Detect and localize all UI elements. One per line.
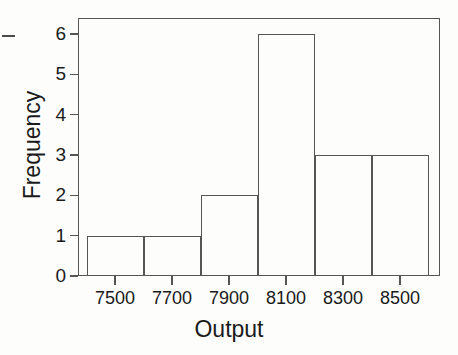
y-axis-tick-label: 5 [55,64,66,83]
x-axis-tick-label: 7700 [140,288,204,308]
y-axis-tick-mark [70,74,78,75]
x-axis-tick-mark [114,276,115,285]
histogram-bar [201,195,258,276]
x-axis-tick-label: 8500 [368,288,432,308]
x-axis-tick-label: 7500 [83,288,147,308]
x-axis-tick-label: 8300 [311,288,375,308]
y-axis-tick-mark [70,235,78,236]
histogram-bar [258,34,315,276]
x-axis-tick-mark [399,276,400,285]
histogram-bar [315,155,372,276]
y-axis-tick-label: 6 [55,24,66,43]
histogram-bar [144,236,201,276]
y-axis-tick-label: 1 [55,226,66,245]
y-axis-tick-mark [70,195,78,196]
histogram-bar [372,155,429,276]
scan-artifact-dash [2,35,15,37]
y-axis-tick-mark [70,33,78,34]
y-axis-tick-mark [70,114,78,115]
y-axis-tick-mark [70,154,78,155]
histogram-figure: Output Frequency 01234567500770079008100… [0,0,458,355]
y-axis-tick-label: 2 [55,185,66,204]
x-axis-tick-mark [342,276,343,285]
y-axis-tick-label: 4 [55,105,66,124]
x-axis-title: Output [0,316,458,342]
x-axis-tick-label: 7900 [197,288,261,308]
histogram-bar [87,236,144,276]
x-axis-tick-mark [285,276,286,285]
y-axis-tick-label: 3 [55,145,66,164]
y-axis-title: Frequency [19,55,45,235]
bars-layer [78,18,440,276]
x-axis-tick-label: 8100 [254,288,318,308]
y-axis-tick-mark [70,275,78,276]
x-axis-tick-mark [228,276,229,285]
x-axis-tick-mark [171,276,172,285]
y-axis-tick-label: 0 [55,266,66,285]
